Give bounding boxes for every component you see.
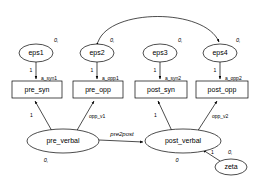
node-zeta[interactable]: zeta 0, <box>215 149 247 175</box>
covariance-arc-eps2-eps4[interactable] <box>98 17 219 43</box>
disturbance-path-zeta-post-verbal[interactable]: 1 <box>203 149 220 161</box>
node-pre-verbal[interactable]: pre_verbal 0, <box>27 129 99 163</box>
error-loading-eps1-pre-syn[interactable]: 1 a_syn1 <box>30 62 58 81</box>
factor-loading-label: opp_v2 <box>212 113 229 119</box>
post-verbal-mean-param: 0 <box>175 157 179 163</box>
eps3-mean-param: 0, <box>178 37 183 43</box>
error-loading-label: 1 <box>214 67 217 73</box>
pre-opp-label: pre_opp <box>85 86 111 94</box>
node-eps3[interactable]: eps3 0, <box>143 37 183 62</box>
covariance-arc-path <box>98 17 219 43</box>
post-syn-label: post_syn <box>147 86 175 94</box>
factor-loading-pre-verbal-pre-syn[interactable]: 1 <box>30 101 52 131</box>
error-variance-label: a_syn2 <box>165 75 181 81</box>
zeta-label: zeta <box>224 163 237 170</box>
error-variance-label: a_opp2 <box>225 75 242 81</box>
factor-loading-path <box>158 101 172 131</box>
node-post-verbal[interactable]: post_verbal 0 <box>145 129 221 163</box>
factor-loading-label: 1 <box>30 112 33 118</box>
node-eps4[interactable]: eps4 0, <box>203 37 241 62</box>
node-eps1[interactable]: eps1 0, <box>19 37 59 62</box>
diagram-canvas: 1 a_syn1 1 a_opp1 1 a_syn2 1 a_opp2 1 op… <box>0 0 255 178</box>
node-post-syn[interactable]: post_syn <box>135 81 187 98</box>
eps1-mean-param: 0, <box>54 37 59 43</box>
error-loading-eps3-post-syn[interactable]: 1 a_syn2 <box>154 62 182 81</box>
structural-path-label: pre2post <box>109 131 134 137</box>
sem-path-diagram: 1 a_syn1 1 a_opp1 1 a_syn2 1 a_opp2 1 op… <box>0 0 255 178</box>
error-variance-label: a_syn1 <box>41 75 57 81</box>
eps4-mean-param: 0, <box>236 37 241 43</box>
factor-loading-pre-verbal-pre-opp[interactable]: opp_v1 <box>76 101 106 132</box>
structural-path-pre2post[interactable]: pre2post <box>99 131 143 142</box>
node-pre-opp[interactable]: pre_opp <box>73 81 123 98</box>
factor-loading-post-verbal-post-opp[interactable]: opp_v2 <box>197 101 229 132</box>
eps4-label: eps4 <box>212 49 227 57</box>
node-post-opp[interactable]: post_opp <box>196 81 248 98</box>
error-loading-label: 1 <box>154 67 157 73</box>
node-eps2[interactable]: eps2 0, <box>80 37 115 62</box>
error-loading-label: 1 <box>91 67 94 73</box>
pre-verbal-mean-param: 0, <box>44 157 49 163</box>
structural-path-line <box>99 140 143 142</box>
factor-loading-post-verbal-post-syn[interactable]: 1 <box>154 101 172 131</box>
eps2-label: eps2 <box>89 49 104 57</box>
error-loading-label: 1 <box>30 67 33 73</box>
error-variance-label: a_opp1 <box>102 75 119 81</box>
post-verbal-label: post_verbal <box>165 137 202 145</box>
factor-loading-label: 1 <box>154 112 157 118</box>
error-loading-eps2-pre-opp[interactable]: 1 a_opp1 <box>91 62 119 81</box>
factor-loading-path <box>35 101 52 131</box>
eps2-mean-param: 0, <box>110 37 115 43</box>
eps3-label: eps3 <box>152 49 167 57</box>
pre-verbal-label: pre_verbal <box>46 137 80 145</box>
pre-syn-label: pre_syn <box>25 86 50 94</box>
post-opp-label: post_opp <box>208 86 237 94</box>
factor-loading-label: opp_v1 <box>89 113 106 119</box>
eps1-label: eps1 <box>28 49 43 57</box>
error-loading-eps4-post-opp[interactable]: 1 a_opp2 <box>214 62 242 81</box>
zeta-mean-param: 0, <box>228 149 233 155</box>
node-pre-syn[interactable]: pre_syn <box>12 81 62 98</box>
disturbance-loading-label: 1 <box>211 149 214 155</box>
